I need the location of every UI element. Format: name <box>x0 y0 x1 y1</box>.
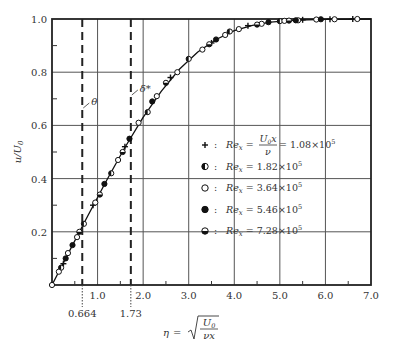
marker-half-bottom <box>202 228 208 234</box>
y-tick-label: 0.2 <box>31 227 47 238</box>
legend-label: Rex = 7.28×105 <box>225 224 302 238</box>
x-tick-label: 1.0 <box>90 290 106 301</box>
marker-open <box>115 157 120 162</box>
marker-filled <box>102 181 107 186</box>
marker-filled <box>63 256 68 261</box>
plot-frame <box>52 19 371 285</box>
label-leader <box>132 90 138 95</box>
legend-item: :Rex = U0xν = 1.08×105 <box>202 133 335 157</box>
marker-half-bottom <box>254 22 259 27</box>
legend-item: :Rex = 1.82×105 <box>202 160 302 174</box>
legend-label: Rex = 1.82×105 <box>225 160 302 174</box>
legend-colon: : <box>214 182 217 193</box>
x-tick-label: 5.0 <box>272 290 288 301</box>
marker-half-bottom <box>163 80 168 85</box>
x-axis-equals: = <box>173 327 181 338</box>
legend-item: :Rex = 3.64×105 <box>202 181 302 195</box>
legend-item: :Rex = 5.46×105 <box>202 203 302 217</box>
x-label-numerator: U0 <box>203 317 216 330</box>
x-tick-label: 3.0 <box>181 290 197 301</box>
chart: 0.664θ1.73δ* 1.02.03.04.05.06.07.00.20.4… <box>0 0 396 350</box>
legend-colon: : <box>214 225 217 236</box>
marker-half-left <box>81 221 86 226</box>
marker-open <box>65 250 70 255</box>
y-tick-label: 0.4 <box>31 174 47 185</box>
x-tick-label: 6.0 <box>317 290 333 301</box>
x-tick-label: 4.0 <box>226 290 242 301</box>
marker-open <box>236 27 241 32</box>
marker-half-bottom <box>77 229 82 234</box>
x-tick-label: 2.0 <box>135 290 151 301</box>
marker-open <box>154 94 159 99</box>
axis-ticks: 1.02.03.04.05.06.07.00.20.40.60.81.0 <box>31 14 379 301</box>
legend-item: :Rex = 7.28×105 <box>202 224 302 238</box>
marker-filled <box>150 99 155 104</box>
delta-value-label: 1.73 <box>120 308 142 319</box>
marker-half-left <box>227 29 232 34</box>
legend-colon: : <box>214 204 217 215</box>
axis-labels: u/U0η =U0νx <box>12 140 219 341</box>
x-tick-label: 7.0 <box>363 290 379 301</box>
marker-filled <box>127 136 132 141</box>
legend-label: Rex = 5.46×105 <box>225 203 302 217</box>
x-axis-label: η <box>163 327 169 338</box>
marker-half-bottom <box>120 149 125 154</box>
legend: :Rex = U0xν = 1.08×105:Rex = 1.82×105:Re… <box>202 133 336 238</box>
legend-label: Rex = 3.64×105 <box>225 181 302 195</box>
marker-plus <box>202 142 208 148</box>
axes-box <box>52 19 371 285</box>
marker-filled <box>213 37 218 42</box>
marker-half-left <box>186 56 191 61</box>
marker-open <box>332 17 337 22</box>
marker-half-bottom <box>97 192 102 197</box>
y-tick-label: 1.0 <box>31 14 47 25</box>
blasius-curve-path <box>52 19 371 285</box>
marker-open <box>202 185 208 191</box>
reference-lines: 0.664θ1.73δ* <box>68 19 151 319</box>
label-leader <box>83 103 89 108</box>
marker-half-left <box>109 171 114 176</box>
theta-label: θ <box>91 96 97 107</box>
y-tick-label: 0.8 <box>31 67 47 78</box>
marker-filled <box>70 243 75 248</box>
legend-label: Rex = <box>225 139 254 152</box>
legend-colon: : <box>214 139 217 150</box>
marker-open <box>175 70 180 75</box>
marker-filled <box>266 20 271 25</box>
grid <box>52 19 371 285</box>
blasius-curve <box>52 19 371 285</box>
marker-open <box>136 120 141 125</box>
marker-open <box>49 282 54 287</box>
marker-open <box>200 47 205 52</box>
marker-filled <box>318 17 323 22</box>
marker-half-left <box>145 110 150 115</box>
marker-open <box>56 269 61 274</box>
marker-open <box>93 200 98 205</box>
data-points <box>49 16 360 288</box>
x-label-denominator: νx <box>203 330 215 341</box>
marker-half-bottom <box>286 18 291 23</box>
y-axis-label: u/U0 <box>12 140 25 163</box>
marker-filled <box>293 18 298 23</box>
marker-open <box>74 235 79 240</box>
marker-plus <box>167 75 173 81</box>
marker-half-bottom <box>207 42 212 47</box>
theta-value-label: 0.664 <box>68 308 97 319</box>
marker-filled <box>202 206 208 212</box>
y-tick-label: 0.6 <box>31 120 47 131</box>
legend-frac-den: ν <box>265 146 271 157</box>
marker-half-left <box>202 163 208 169</box>
marker-open <box>223 32 228 37</box>
legend-colon: : <box>214 161 217 172</box>
delta-star-label: δ* <box>140 83 151 94</box>
marker-open <box>355 16 360 21</box>
legend-frac-num: U0x <box>259 133 277 145</box>
legend-value: = 1.08×105 <box>279 138 335 150</box>
